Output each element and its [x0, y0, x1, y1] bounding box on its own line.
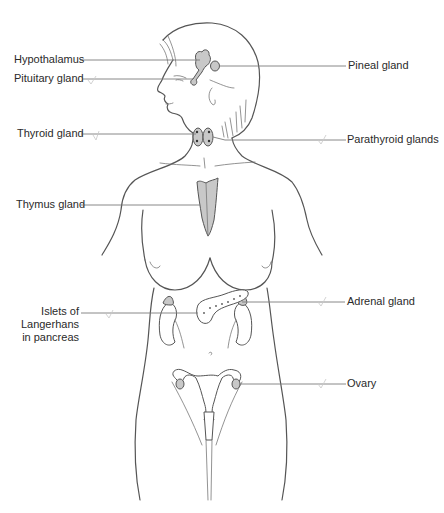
parathyroid-dot [208, 140, 210, 142]
islet-dot [239, 295, 241, 297]
islet-dot [215, 305, 217, 307]
parathyroid-dot [196, 140, 198, 142]
label-islets-line3: in pancreas [20, 331, 79, 344]
checkmark-icon [318, 297, 326, 306]
thyroid-gland [193, 128, 213, 146]
label-islets-line2: Langerhans [20, 318, 79, 331]
islet-dot [227, 301, 229, 303]
checkmark-icon [318, 135, 326, 144]
head [157, 23, 259, 138]
label-hypothalamus: Hypothalamus [14, 53, 84, 66]
hypothalamus-pituitary-gland [191, 50, 211, 85]
label-pituitary: Pituitary gland [14, 72, 84, 85]
left-ovary [176, 379, 184, 389]
label-islets-line1: Islets of [20, 305, 79, 318]
left-kidney [159, 296, 184, 348]
label-thyroid: Thyroid gland [17, 127, 84, 140]
parathyroid-dot [208, 131, 210, 133]
leader-parathyroid [213, 137, 225, 140]
pineal-gland [211, 61, 220, 71]
label-thymus: Thymus gland [16, 198, 85, 211]
uterus [172, 369, 242, 500]
islet-dot [233, 298, 235, 300]
label-ovary: Ovary [347, 377, 376, 390]
label-pineal: Pineal gland [348, 59, 409, 72]
islet-dot [221, 303, 223, 305]
label-parathyroid: Parathyroid glands [347, 133, 439, 146]
checkmark-icon [106, 310, 113, 318]
label-islets: Islets of Langerhans in pancreas [20, 305, 79, 344]
right-ovary [232, 379, 240, 389]
label-adrenal: Adrenal gland [347, 295, 415, 308]
checkmark-icon [93, 131, 99, 140]
checkmark-icon [318, 379, 326, 388]
islet-dot [203, 312, 205, 314]
islet-dot [209, 307, 211, 309]
checkmark-icon [88, 76, 96, 84]
parathyroid-dot [196, 131, 198, 133]
